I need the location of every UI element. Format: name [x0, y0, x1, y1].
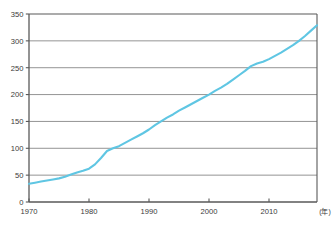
x-tick-label: 1990 — [141, 207, 158, 216]
chart-root: 050100150200250300350 197019801990200020… — [0, 0, 332, 229]
y-tick-label: 200 — [11, 90, 24, 99]
gridlines — [29, 14, 317, 175]
x-tick-label: 2010 — [261, 207, 278, 216]
y-axis-labels: 050100150200250300350 — [11, 10, 24, 207]
x-tick-label: 2000 — [201, 207, 218, 216]
y-tick-label: 300 — [11, 37, 24, 46]
y-tick-label: 250 — [11, 64, 24, 73]
y-tick-label: 100 — [11, 144, 24, 153]
x-axis-unit-label: (年) — [319, 207, 331, 216]
data-line-series-1 — [29, 25, 317, 183]
x-axis-labels: 19701980199020002010 — [21, 207, 278, 216]
x-tick-label: 1980 — [81, 207, 98, 216]
x-tick-label: 1970 — [21, 207, 38, 216]
y-tick-label: 0 — [19, 198, 23, 207]
line-chart-svg: 050100150200250300350 197019801990200020… — [0, 0, 332, 229]
y-tick-label: 350 — [11, 10, 24, 19]
plot-area: 050100150200250300350 197019801990200020… — [0, 0, 332, 229]
y-tick-label: 150 — [11, 117, 24, 126]
y-tick-label: 50 — [15, 171, 23, 180]
